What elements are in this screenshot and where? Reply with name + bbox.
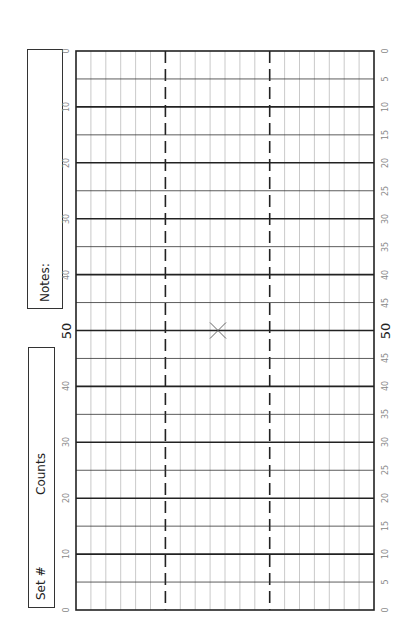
axis-tick-label: 0 (62, 48, 71, 53)
axis-tick-label: 30 (62, 214, 71, 224)
axis-tick-label: 10 (62, 102, 71, 112)
axis-tick-label: 10 (62, 549, 71, 559)
axis-tick-label: 40 (62, 381, 71, 391)
axis-tick-label: 30 (381, 214, 390, 224)
axis-tick-label: 40 (381, 381, 390, 391)
axis-tick-label: 50 (378, 322, 393, 339)
axis-tick-label: 30 (62, 437, 71, 447)
axis-tick-label: 0 (381, 607, 390, 612)
axis-tick-label: 25 (381, 465, 390, 475)
axis-tick-label: 20 (381, 493, 390, 503)
axis-tick-label: 50 (59, 322, 74, 339)
axis-tick-label: 35 (381, 242, 390, 252)
axis-tick-label: 20 (62, 493, 71, 503)
axis-tick-label: 30 (381, 437, 390, 447)
axis-tick-label: 20 (381, 158, 390, 168)
axis-tick-label: 5 (381, 580, 390, 585)
axis-tick-label: 5 (381, 76, 390, 81)
axis-tick-label: 45 (381, 297, 390, 307)
axis-tick-label: 20 (62, 158, 71, 168)
axis-tick-label: 10 (381, 102, 390, 112)
axis-tick-label: 35 (381, 409, 390, 419)
axis-tick-label: 0 (381, 48, 390, 53)
axis-tick-label: 40 (62, 270, 71, 280)
axis-tick-label: 10 (381, 549, 390, 559)
axis-tick-label: 15 (381, 130, 390, 140)
axis-tick-label: 0 (62, 607, 71, 612)
axis-tick-label: 45 (381, 353, 390, 363)
field-grid[interactable] (0, 0, 408, 641)
counts-sheet: Notes: Set # Counts 01020304050403020100… (0, 0, 408, 641)
axis-tick-label: 25 (381, 186, 390, 196)
axis-tick-label: 40 (381, 270, 390, 280)
axis-tick-label: 15 (381, 521, 390, 531)
